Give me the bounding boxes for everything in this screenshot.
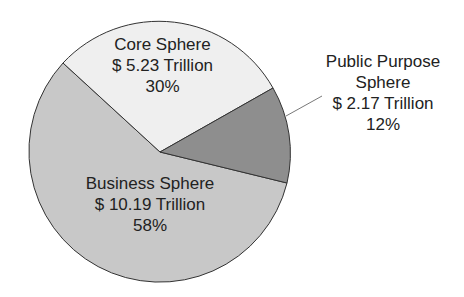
- public-amount: $ 2.17 Trillion: [318, 93, 448, 114]
- leader-line-public: [286, 96, 322, 116]
- label-business: Business Sphere $ 10.19 Trillion 58%: [75, 173, 225, 236]
- pie-chart: [0, 0, 464, 297]
- core-percent: 30%: [95, 76, 230, 97]
- core-name: Core Sphere: [95, 34, 230, 55]
- public-name-2: Sphere: [318, 72, 448, 93]
- label-public: Public Purpose Sphere $ 2.17 Trillion 12…: [318, 51, 448, 135]
- business-name: Business Sphere: [75, 173, 225, 194]
- public-name-1: Public Purpose: [318, 51, 448, 72]
- label-core: Core Sphere $ 5.23 Trillion 30%: [95, 34, 230, 97]
- core-amount: $ 5.23 Trillion: [95, 55, 230, 76]
- business-amount: $ 10.19 Trillion: [75, 194, 225, 215]
- public-percent: 12%: [318, 114, 448, 135]
- business-percent: 58%: [75, 215, 225, 236]
